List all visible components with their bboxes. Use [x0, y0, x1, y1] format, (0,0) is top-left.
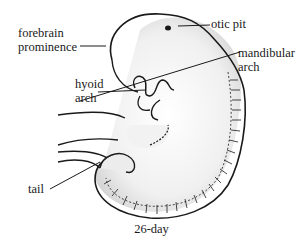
tail-label: tail [28, 182, 44, 196]
otic-pit-label: otic pit [211, 17, 246, 31]
forebrain-prominence-label: forebrain prominence [18, 26, 77, 54]
otic-pit-mark [165, 26, 171, 31]
figure-caption: 26-day [0, 222, 303, 236]
hyoid-arch-label: hyoid arch [75, 77, 103, 105]
embryo-figure: forebrain prominence otic pit mandibular… [0, 0, 303, 252]
mandibular-arch-label: mandibular arch [238, 46, 295, 74]
